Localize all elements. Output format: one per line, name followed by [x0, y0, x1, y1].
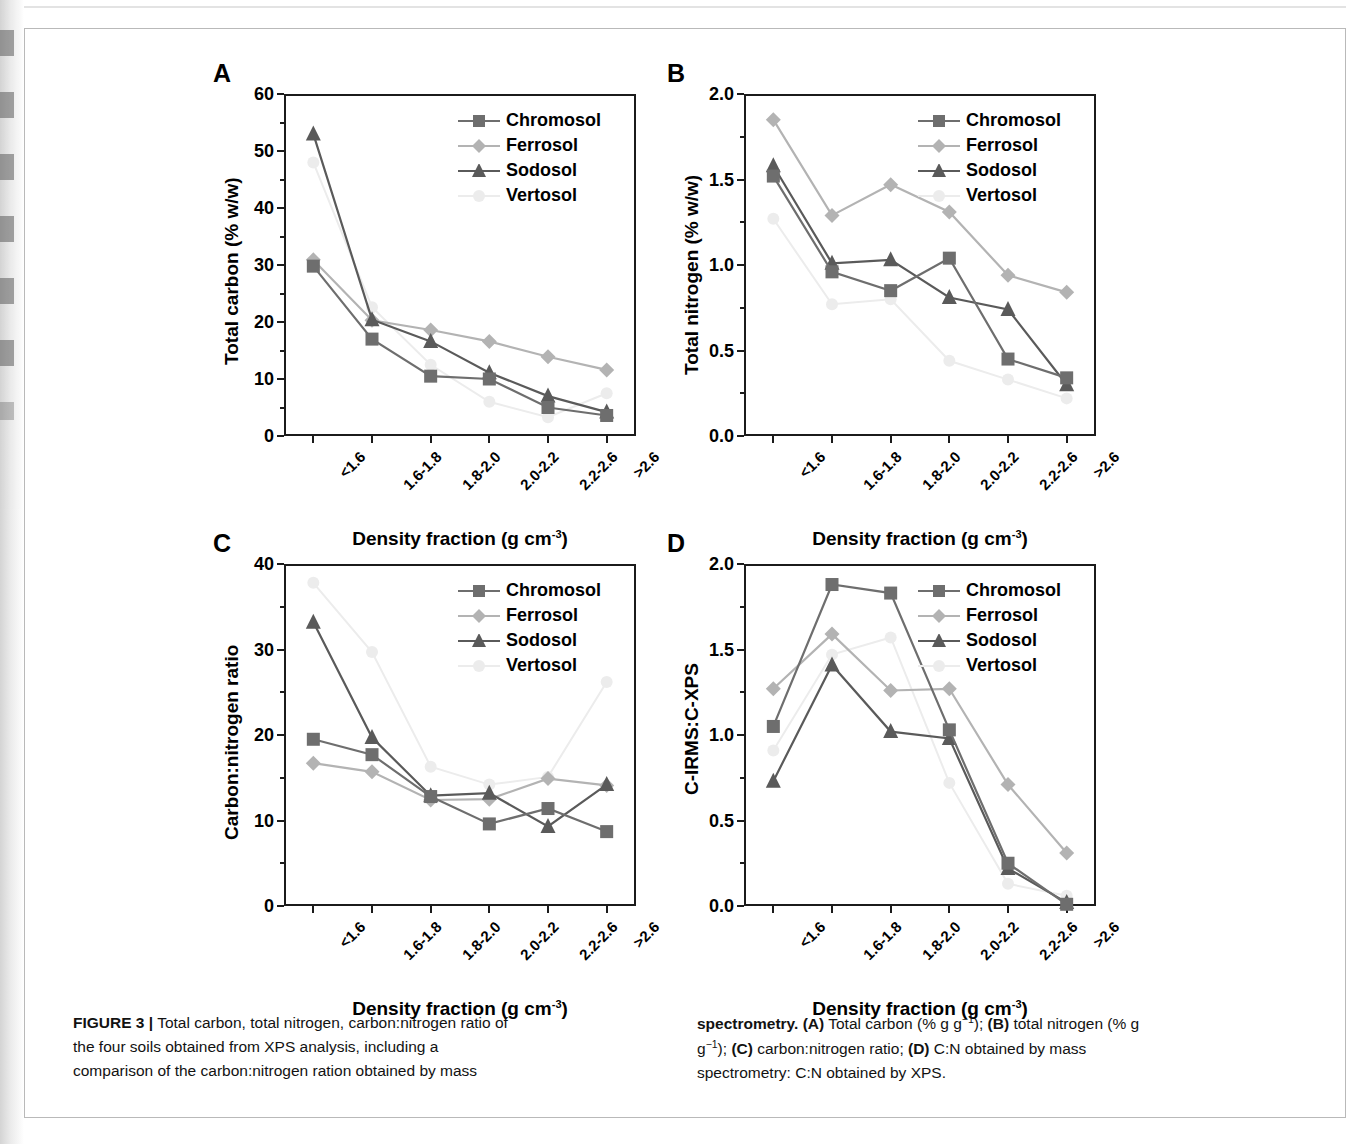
series-chromosol	[307, 733, 613, 838]
data-point	[942, 289, 957, 304]
circle-marker-icon	[458, 659, 500, 673]
data-point	[942, 681, 957, 696]
legend-label: Chromosol	[966, 580, 1061, 601]
square-marker-icon	[918, 114, 960, 128]
legend-label: Ferrosol	[506, 135, 578, 156]
legend-label: Sodosol	[506, 630, 577, 651]
legend-label: Ferrosol	[506, 605, 578, 626]
data-point	[483, 817, 496, 830]
data-point	[767, 744, 779, 756]
data-point	[365, 729, 380, 744]
data-point	[884, 587, 897, 600]
legend-item-vertosol[interactable]: Vertosol	[458, 653, 601, 678]
series-chromosol	[307, 260, 613, 422]
data-point	[883, 251, 898, 266]
data-point	[600, 409, 613, 422]
circle-marker-icon	[918, 189, 960, 203]
panel-b: B 0.00.51.01.52.0<1.61.6-1.81.8-2.02.0-2…	[645, 59, 1085, 529]
series-sodosol	[766, 656, 1074, 909]
data-point	[307, 156, 319, 168]
data-point	[366, 748, 379, 761]
legend-label: Ferrosol	[966, 135, 1038, 156]
legend-label: Sodosol	[966, 630, 1037, 651]
legend-item-sodosol[interactable]: Sodosol	[918, 158, 1061, 183]
data-point	[826, 298, 838, 310]
caption-right-line-2: g−1); (C) carbon:nitrogen ratio; (D) C:N…	[697, 1036, 1287, 1061]
data-point	[884, 284, 897, 297]
scanned-page-edge	[0, 0, 24, 1144]
chart-legend: ChromosolFerrosolSodosolVertosol	[458, 578, 601, 678]
data-point	[943, 723, 956, 736]
legend-item-sodosol[interactable]: Sodosol	[918, 628, 1061, 653]
legend-item-vertosol[interactable]: Vertosol	[458, 183, 601, 208]
legend-item-ferrosol[interactable]: Ferrosol	[918, 603, 1061, 628]
data-point	[482, 334, 497, 349]
data-point	[425, 359, 437, 371]
legend-label: Chromosol	[506, 580, 601, 601]
data-point	[1002, 878, 1014, 890]
circle-marker-icon	[458, 189, 500, 203]
data-point	[1060, 371, 1073, 384]
diamond-marker-icon	[918, 609, 960, 623]
x-axis-category-label: >2.6	[1089, 448, 1122, 481]
data-point	[943, 777, 955, 789]
legend-label: Vertosol	[966, 655, 1037, 676]
data-point	[306, 756, 321, 771]
data-point	[483, 373, 496, 386]
triangle-marker-icon	[918, 634, 960, 648]
data-point	[1002, 353, 1015, 366]
data-point	[483, 396, 495, 408]
data-point	[766, 112, 781, 127]
figure-caption-left-column: FIGURE 3 | Total carbon, total nitrogen,…	[73, 1011, 673, 1083]
data-point	[542, 401, 555, 414]
legend-item-ferrosol[interactable]: Ferrosol	[458, 603, 601, 628]
legend-item-chromosol[interactable]: Chromosol	[918, 578, 1061, 603]
legend-label: Vertosol	[966, 185, 1037, 206]
page-top-rule	[24, 6, 1346, 8]
legend-label: Chromosol	[966, 110, 1061, 131]
legend-item-vertosol[interactable]: Vertosol	[918, 183, 1061, 208]
data-point	[306, 614, 321, 629]
x-axis-category-label: >2.6	[1089, 918, 1122, 951]
square-marker-icon	[918, 584, 960, 598]
data-point	[943, 355, 955, 367]
triangle-marker-icon	[918, 164, 960, 178]
legend-item-chromosol[interactable]: Chromosol	[458, 578, 601, 603]
caption-right-line-1: spectrometry. (A) Total carbon (% g g−1)…	[697, 1011, 1287, 1036]
data-point	[307, 260, 320, 273]
data-point	[425, 761, 437, 773]
data-point	[1002, 374, 1014, 386]
data-point	[424, 370, 437, 383]
data-point	[1061, 392, 1073, 404]
circle-marker-icon	[918, 659, 960, 673]
data-point	[943, 252, 956, 265]
triangle-marker-icon	[458, 164, 500, 178]
legend-label: Vertosol	[506, 655, 577, 676]
caption-left-line-1: Total carbon, total nitrogen, carbon:nit…	[153, 1014, 508, 1031]
legend-item-chromosol[interactable]: Chromosol	[458, 108, 601, 133]
legend-item-sodosol[interactable]: Sodosol	[458, 628, 601, 653]
data-point	[541, 818, 556, 833]
legend-item-vertosol[interactable]: Vertosol	[918, 653, 1061, 678]
triangle-marker-icon	[458, 634, 500, 648]
diamond-marker-icon	[918, 139, 960, 153]
data-point	[826, 578, 839, 591]
data-point	[542, 802, 555, 815]
data-point	[601, 676, 613, 688]
legend-item-ferrosol[interactable]: Ferrosol	[458, 133, 601, 158]
diamond-marker-icon	[458, 609, 500, 623]
legend-item-ferrosol[interactable]: Ferrosol	[918, 133, 1061, 158]
legend-label: Ferrosol	[966, 605, 1038, 626]
legend-label: Chromosol	[506, 110, 601, 131]
data-point	[766, 773, 781, 788]
data-point	[306, 125, 321, 140]
data-point	[599, 362, 614, 377]
caption-right-line-3: spectrometry: C:N obtained by XPS.	[697, 1061, 1287, 1085]
data-point	[366, 333, 379, 346]
caption-lead-left: FIGURE 3 |	[73, 1014, 153, 1031]
legend-item-sodosol[interactable]: Sodosol	[458, 158, 601, 183]
legend-label: Vertosol	[506, 185, 577, 206]
square-marker-icon	[458, 584, 500, 598]
legend-item-chromosol[interactable]: Chromosol	[918, 108, 1061, 133]
data-point	[1002, 857, 1015, 870]
